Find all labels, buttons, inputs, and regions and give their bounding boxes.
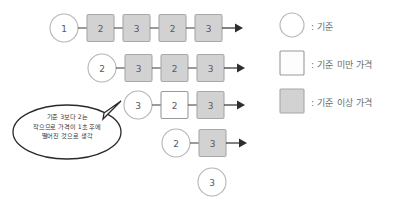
legend-label-below-standard: : 기준 미만 가격: [311, 58, 373, 71]
legend-circle-swatch: [280, 13, 304, 37]
diagram-row: 12323: [50, 14, 243, 42]
diagram-canvas: 123232323323233 기준 3보다 2는 작으므로 가격이 1초 후에…: [0, 0, 397, 208]
row-circle-label: 3: [209, 178, 215, 188]
diagram-row: 323: [124, 91, 245, 119]
legend-below-swatch: [280, 51, 304, 75]
bubble-line-3: 떨어진 것으로 생각: [13, 131, 121, 141]
price-box-label: 3: [136, 64, 142, 74]
price-box-label: 2: [172, 101, 178, 111]
rows-layer: 123232323323233: [50, 14, 247, 196]
diagram-row: 2323: [88, 54, 245, 82]
price-box-label: 3: [208, 64, 214, 74]
legend-above-swatch: [280, 89, 304, 113]
price-box-label: 3: [208, 101, 214, 111]
row-arrow-head: [239, 138, 247, 147]
bubble-line-1: 기준 3보다 2는: [13, 112, 121, 122]
row-arrow-head: [235, 23, 243, 32]
row-arrow-head: [237, 63, 245, 72]
price-box-label: 2: [98, 24, 104, 34]
diagram-row: 3: [198, 168, 226, 196]
row-circle-label: 1: [61, 24, 67, 34]
diagram-row: 23: [162, 129, 247, 157]
price-box-label: 2: [170, 24, 176, 34]
speech-bubble-text: 기준 3보다 2는 작으므로 가격이 1초 후에 떨어진 것으로 생각: [13, 112, 121, 141]
price-box-label: 3: [210, 139, 216, 149]
legend-label-above-standard: : 기준 이상 가격: [311, 96, 373, 109]
row-circle-label: 3: [135, 101, 141, 111]
row-circle-label: 2: [173, 139, 179, 149]
price-box-label: 2: [172, 64, 178, 74]
row-arrow-head: [237, 100, 245, 109]
price-box-label: 3: [134, 24, 140, 34]
legend-label-standard: : 기준: [311, 20, 334, 33]
bubble-line-2: 작으므로 가격이 1초 후에: [13, 122, 121, 132]
row-circle-label: 2: [99, 64, 105, 74]
legend-graphics: [280, 13, 304, 113]
price-box-label: 3: [206, 24, 212, 34]
